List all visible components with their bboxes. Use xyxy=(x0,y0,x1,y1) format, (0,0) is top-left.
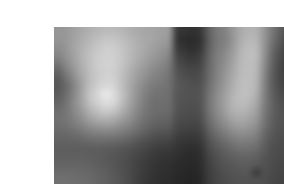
pixelated-grayscale-image xyxy=(54,27,284,184)
page-root: Heavily pixelated grayscale image xyxy=(0,0,284,184)
mosaic-heatmap-canvas xyxy=(54,27,284,184)
